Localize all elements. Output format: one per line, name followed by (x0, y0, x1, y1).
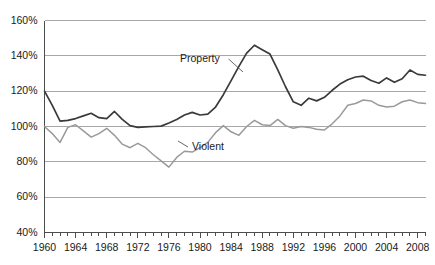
x-axis-tick-labels: 1960196419681972197619801984198819921996… (33, 241, 430, 253)
y-tick-label-40: 40% (16, 226, 37, 238)
y-tick-label-80: 80% (16, 155, 37, 167)
y-axis-tick-labels: 160%140%120%100%80%60%40% (11, 14, 38, 238)
y-tick-label-140: 140% (11, 49, 38, 61)
x-tick-label-1968: 1968 (95, 241, 119, 253)
x-tick-label-1988: 1988 (251, 241, 275, 253)
chart-canvas: 160%140%120%100%80%60%40% 19601964196819… (0, 0, 435, 265)
gridlines (45, 21, 426, 198)
x-tick-label-1964: 1964 (64, 241, 88, 253)
x-tick-label-1960: 1960 (33, 241, 57, 253)
violent-label: Violent (192, 140, 224, 152)
y-tick-label-60: 60% (16, 190, 37, 202)
y-tick-label-100: 100% (11, 120, 38, 132)
x-tick-label-1992: 1992 (282, 241, 306, 253)
x-tick-label-1984: 1984 (219, 241, 243, 253)
x-tick-label-2000: 2000 (344, 241, 368, 253)
y-tick-label-160: 160% (11, 14, 38, 26)
x-tick-label-1972: 1972 (126, 241, 150, 253)
x-tick-label-1996: 1996 (313, 241, 337, 253)
x-axis-tick-marks (45, 233, 426, 238)
violent-label-leader (178, 141, 188, 147)
x-tick-label-2008: 2008 (406, 241, 430, 253)
x-tick-label-1980: 1980 (188, 241, 212, 253)
series-line-property (45, 45, 426, 127)
data-series (45, 45, 426, 167)
x-tick-label-2004: 2004 (375, 241, 399, 253)
series-annotations: PropertyViolent (178, 52, 243, 152)
line-chart-crime-index: 160%140%120%100%80%60%40% 19601964196819… (0, 0, 435, 265)
property-label: Property (180, 52, 220, 64)
x-tick-label-1976: 1976 (157, 241, 181, 253)
series-line-violent (45, 100, 426, 167)
property-label-leader (229, 59, 243, 72)
y-tick-label-120: 120% (11, 84, 38, 96)
